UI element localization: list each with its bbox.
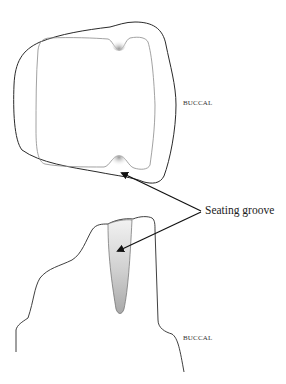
proximal-buccal-label: BUCCAL — [183, 334, 213, 342]
occlusal-view — [14, 22, 176, 183]
seating-groove-column — [108, 220, 132, 314]
occlusal-inner-outline — [36, 37, 155, 169]
proximal-right-contour — [155, 230, 184, 372]
top-seating-groove — [112, 39, 126, 51]
seating-groove-label: Seating groove — [205, 204, 274, 216]
diagram-canvas — [0, 0, 286, 384]
occlusal-buccal-label: BUCCAL — [183, 99, 213, 107]
bottom-seating-groove — [112, 155, 126, 167]
occlusal-outer-outline — [14, 22, 176, 183]
proximal-left-contour — [16, 224, 108, 352]
proximal-view — [16, 217, 184, 372]
arrow-to-occlusal-groove — [122, 173, 201, 211]
